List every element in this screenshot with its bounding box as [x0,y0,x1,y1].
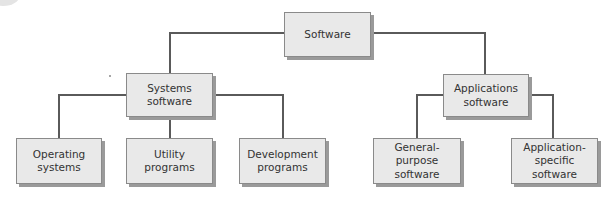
connector-applications-left-h [416,94,444,96]
connector-systems-to-os-v [58,94,60,139]
connector-systems-left-h [58,94,127,96]
node-software: Software [284,12,371,57]
connector-root-to-applications-h [370,32,486,34]
connector-systems-to-utility-v [169,117,171,139]
corner-decoration [0,0,20,6]
connector-root-to-systems-h [169,32,285,34]
software-hierarchy-diagram: Software Systems software Applications s… [0,0,616,199]
connector-systems-right-h [212,94,284,96]
connector-systems-to-dev-v [282,94,284,139]
node-applications-software: Applications software [443,74,529,117]
connector-applications-to-specific-v [552,94,554,139]
node-systems-software: Systems software [126,73,213,117]
node-application-specific-software: Application- specific software [511,138,598,184]
stray-dot [109,75,111,77]
connector-root-to-applications-v [484,32,486,75]
connector-applications-right-h [527,94,554,96]
node-operating-systems: Operating systems [16,138,102,184]
node-general-purpose-software: General- purpose software [373,138,461,184]
connector-root-to-systems-v [169,32,171,74]
node-utility-programs: Utility programs [126,138,213,184]
node-development-programs: Development programs [239,138,326,184]
connector-applications-to-general-v [416,94,418,139]
